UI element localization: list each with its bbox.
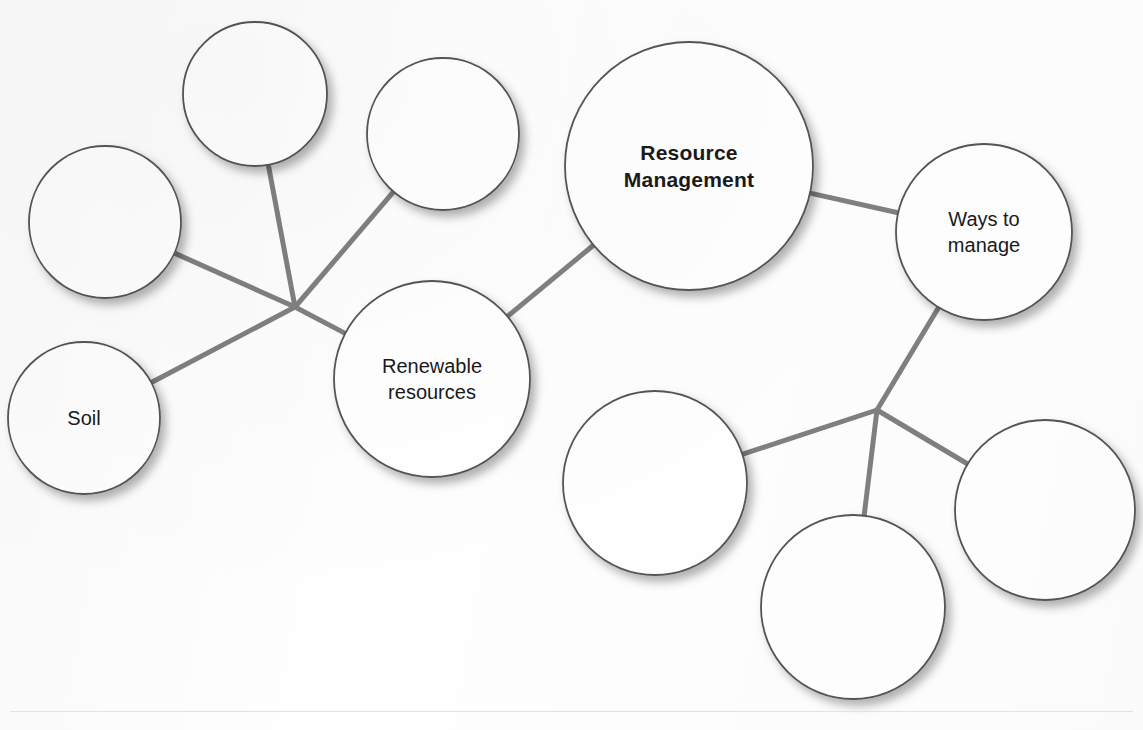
node-label-line: resources [388,381,476,403]
connector-line [295,191,394,307]
node-label-line: Ways to [948,208,1020,230]
node-circle[interactable] [896,144,1072,320]
concept-node-blank[interactable] [761,515,945,699]
concept-node-soil[interactable]: Soil [8,342,160,494]
concept-node-blank[interactable] [183,22,327,166]
node-circle[interactable] [563,391,747,575]
edges-layer [150,164,968,517]
node-label-line: Resource [640,141,737,164]
connector-line [877,307,939,410]
connector-line [507,244,595,317]
node-label: Soil [67,407,100,429]
concept-node-renewable-resources[interactable]: Renewableresources [334,281,530,477]
concept-node-blank[interactable] [29,146,181,298]
concept-node-resource-management[interactable]: ResourceManagement [565,42,813,290]
connector-line [295,307,346,334]
nodes-layer: SoilRenewableresourcesResourceManagement… [8,22,1135,699]
node-circle[interactable] [183,22,327,166]
bottom-divider [10,711,1133,712]
node-circle[interactable] [367,58,519,210]
connector-line [809,193,899,213]
concept-node-ways-to-manage[interactable]: Ways tomanage [896,144,1072,320]
concept-map-graphic: SoilRenewableresourcesResourceManagement… [0,0,1143,730]
connector-line [150,307,295,383]
concept-node-blank[interactable] [955,420,1135,600]
node-circle[interactable] [565,42,813,290]
node-label-line: Renewable [382,355,482,377]
node-label-line: Management [624,168,754,191]
node-circle[interactable] [334,281,530,477]
concept-node-blank[interactable] [367,58,519,210]
connector-line [864,410,877,517]
connector-line [741,410,877,455]
connector-line [173,253,295,307]
node-label-line: manage [948,234,1020,256]
connector-line [268,164,295,307]
node-circle[interactable] [29,146,181,298]
node-label-line: Soil [67,407,100,429]
concept-map-canvas: SoilRenewableresourcesResourceManagement… [0,0,1143,730]
connector-line [877,410,969,464]
node-circle[interactable] [955,420,1135,600]
concept-node-blank[interactable] [563,391,747,575]
node-circle[interactable] [761,515,945,699]
